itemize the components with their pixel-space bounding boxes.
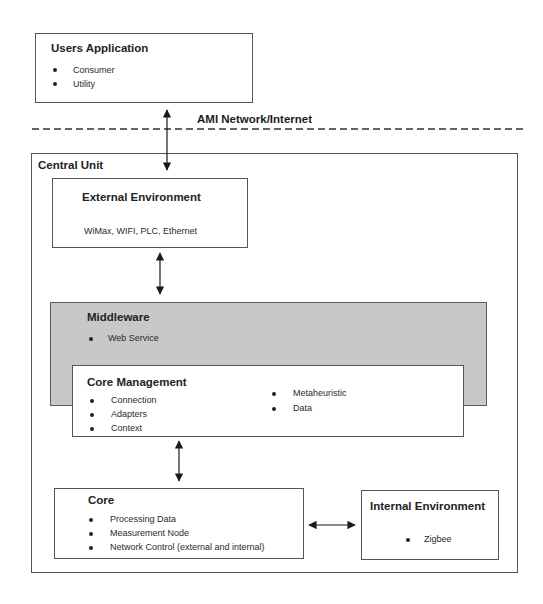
connectors: [0, 0, 543, 604]
